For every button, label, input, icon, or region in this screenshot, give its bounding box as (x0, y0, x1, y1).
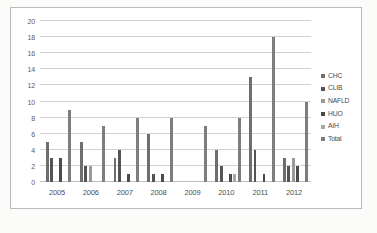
bar[interactable] (296, 166, 299, 182)
bar[interactable] (80, 142, 83, 182)
legend-item-clib[interactable]: CLIB (321, 83, 371, 96)
y-axis-tick-labels: 02468101214161820 (11, 21, 38, 182)
bar-group (249, 21, 276, 182)
legend-item-label: HUO (328, 111, 343, 118)
y-axis-tick-label: 6 (31, 130, 35, 137)
bar[interactable] (233, 174, 236, 182)
y-axis-tick-label: 16 (28, 50, 35, 57)
legend-swatch-icon (321, 87, 325, 91)
bar-group (147, 21, 174, 182)
bar-group (283, 21, 310, 182)
bar[interactable] (114, 158, 117, 182)
bar[interactable] (292, 158, 295, 182)
bar[interactable] (263, 174, 266, 182)
bar[interactable] (204, 126, 207, 182)
x-axis-tick-label: 2011 (253, 188, 268, 197)
bar[interactable] (283, 158, 286, 182)
bar[interactable] (254, 150, 257, 182)
bar-group (46, 21, 73, 182)
x-axis-tick-label: 2006 (83, 188, 99, 197)
y-axis-tick-label: 4 (31, 146, 35, 153)
y-axis-tick-label: 10 (28, 98, 35, 105)
legend-swatch-icon (321, 112, 325, 116)
legend-item-chc[interactable]: CHC (321, 70, 371, 83)
x-axis-tick-label: 2005 (49, 188, 65, 197)
bar[interactable] (68, 110, 71, 182)
bar[interactable] (136, 118, 139, 182)
legend-item-label: Total (328, 136, 341, 143)
bar[interactable] (118, 150, 121, 182)
legend-item-label: AIH (328, 123, 339, 130)
bar[interactable] (170, 118, 173, 182)
legend-item-label: CLIB (328, 85, 342, 92)
bar[interactable] (161, 174, 164, 182)
bar-group (114, 21, 141, 182)
y-axis-tick-label: 2 (31, 162, 35, 169)
bar[interactable] (287, 166, 290, 182)
bar[interactable] (220, 166, 223, 182)
bar-group (215, 21, 242, 182)
legend-swatch-icon (321, 125, 325, 129)
bar[interactable] (152, 174, 155, 182)
bar[interactable] (59, 158, 62, 182)
y-axis-tick-label: 18 (28, 34, 35, 41)
y-axis-tick-label: 20 (28, 18, 35, 25)
x-axis-tick-label: 2008 (151, 188, 167, 197)
legend-item-aih[interactable]: AIH (321, 120, 371, 133)
bar-series-container (40, 21, 311, 182)
x-axis-tick-label: 2007 (117, 188, 133, 197)
bar-group (80, 21, 107, 182)
bar[interactable] (50, 158, 53, 182)
bar[interactable] (215, 150, 218, 182)
legend-item-nafld[interactable]: NAFLD (321, 95, 371, 108)
y-axis-tick-label: 8 (31, 114, 35, 121)
bar[interactable] (89, 166, 92, 182)
bar[interactable] (272, 37, 275, 182)
legend-item-total[interactable]: Total (321, 133, 371, 146)
bar-group (181, 21, 208, 182)
legend-swatch-icon (321, 74, 325, 78)
x-axis-tick-label: 2010 (218, 188, 234, 197)
bar[interactable] (238, 118, 241, 182)
chart-frame: 02468101214161820 2005200620072008200920… (10, 7, 362, 209)
x-axis-tick-labels: 20052006200720082009201020112012 (40, 188, 311, 202)
y-axis-tick-label: 12 (28, 82, 35, 89)
legend-swatch-icon (321, 137, 325, 141)
bar[interactable] (46, 142, 49, 182)
bar[interactable] (127, 174, 130, 182)
y-axis-tick-label: 14 (28, 66, 35, 73)
plot-area (40, 21, 311, 182)
bar[interactable] (84, 166, 87, 182)
legend-item-label: CHC (328, 73, 342, 80)
legend-item-label: NAFLD (328, 98, 349, 105)
x-axis-tick-label: 2012 (286, 188, 302, 197)
bar[interactable] (305, 102, 308, 183)
bar[interactable] (147, 134, 150, 182)
legend-swatch-icon (321, 99, 325, 103)
legend-item-huo[interactable]: HUO (321, 108, 371, 121)
bar[interactable] (249, 77, 252, 182)
x-axis-tick-label: 2009 (184, 188, 200, 197)
bar[interactable] (229, 174, 232, 182)
bar[interactable] (102, 126, 105, 182)
chart-legend: CHCCLIBNAFLDHUOAIHTotal (321, 70, 371, 146)
y-axis-tick-label: 0 (31, 179, 35, 186)
